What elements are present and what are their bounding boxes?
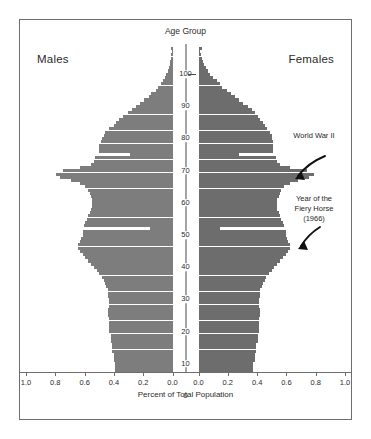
bar bbox=[199, 282, 264, 285]
bar bbox=[90, 192, 173, 195]
bar bbox=[199, 324, 259, 327]
bar bbox=[199, 295, 261, 298]
y-tick-label: 30 bbox=[180, 296, 190, 304]
bar bbox=[199, 247, 290, 250]
bar bbox=[88, 189, 172, 192]
bar bbox=[114, 356, 173, 359]
bar bbox=[199, 314, 261, 317]
y-tick-label: 50 bbox=[180, 231, 190, 239]
bar bbox=[199, 86, 223, 89]
bar bbox=[199, 185, 285, 188]
y-tick-label: 10 bbox=[180, 360, 190, 368]
bar bbox=[199, 92, 231, 95]
bar bbox=[111, 340, 173, 343]
bar bbox=[78, 243, 172, 246]
bar bbox=[199, 208, 278, 211]
bar bbox=[108, 292, 173, 295]
bar bbox=[199, 121, 264, 124]
bar bbox=[199, 250, 289, 253]
bar bbox=[199, 198, 278, 201]
bar bbox=[199, 66, 206, 69]
bar bbox=[81, 237, 172, 240]
bar bbox=[199, 234, 286, 237]
x-tick bbox=[199, 372, 200, 376]
bar bbox=[91, 263, 172, 266]
bar bbox=[109, 305, 172, 308]
y-tick-label: 20 bbox=[180, 328, 190, 336]
bar bbox=[199, 50, 201, 53]
bar bbox=[108, 314, 173, 317]
bar bbox=[92, 205, 172, 208]
bar bbox=[199, 337, 258, 340]
bar bbox=[114, 359, 173, 362]
bar bbox=[108, 311, 173, 314]
bar bbox=[199, 173, 314, 176]
bar bbox=[199, 227, 220, 230]
annotation-world-war-ii: World War II bbox=[283, 131, 345, 141]
bar bbox=[83, 234, 173, 237]
bar bbox=[199, 214, 280, 217]
x-tick-label: 0.6 bbox=[281, 378, 291, 387]
bar bbox=[199, 272, 269, 275]
bar bbox=[199, 356, 255, 359]
x-tick-label: 1.0 bbox=[340, 378, 350, 387]
bar bbox=[199, 53, 201, 56]
bar bbox=[108, 288, 173, 291]
bar bbox=[92, 201, 172, 204]
bar bbox=[199, 340, 258, 343]
bar bbox=[106, 285, 172, 288]
bar bbox=[60, 176, 172, 179]
x-axis-title: Percent of Total Population bbox=[20, 390, 351, 399]
bar bbox=[99, 272, 172, 275]
bar bbox=[199, 47, 202, 50]
bar bbox=[199, 182, 290, 185]
bar bbox=[199, 201, 278, 204]
bar bbox=[199, 195, 279, 198]
bar bbox=[199, 350, 257, 353]
bar bbox=[199, 127, 268, 130]
bar bbox=[115, 366, 173, 369]
bar bbox=[130, 153, 172, 156]
bar bbox=[199, 218, 282, 221]
bar bbox=[116, 121, 172, 124]
bar bbox=[199, 301, 259, 304]
bar bbox=[85, 185, 172, 188]
x-tick-label: 0.8 bbox=[50, 378, 60, 387]
bar bbox=[128, 111, 173, 114]
bar bbox=[199, 73, 211, 76]
bar bbox=[199, 327, 259, 330]
bar bbox=[83, 230, 173, 233]
bar bbox=[102, 137, 172, 140]
bar bbox=[109, 327, 172, 330]
bar bbox=[85, 221, 172, 224]
bar bbox=[199, 147, 273, 150]
bar bbox=[199, 221, 283, 224]
bar bbox=[199, 321, 259, 324]
bar bbox=[91, 208, 172, 211]
bar bbox=[105, 282, 172, 285]
x-tick-label: 1.0 bbox=[21, 378, 31, 387]
chart-frame: Males Females Age Group 0102030405060708… bbox=[19, 19, 352, 420]
bar bbox=[199, 115, 258, 118]
bar bbox=[199, 256, 283, 259]
bar bbox=[109, 301, 172, 304]
bar bbox=[199, 285, 262, 288]
bar bbox=[104, 279, 173, 282]
bar bbox=[199, 134, 272, 137]
bar bbox=[199, 108, 252, 111]
x-tick-label: 0.6 bbox=[79, 378, 89, 387]
x-tick-label: 0.8 bbox=[310, 378, 320, 387]
y-tick-label: 60 bbox=[180, 199, 190, 207]
bar bbox=[112, 346, 172, 349]
bar bbox=[199, 82, 220, 85]
bar bbox=[199, 311, 261, 314]
bar bbox=[88, 214, 172, 217]
bar bbox=[199, 269, 272, 272]
bar bbox=[91, 163, 172, 166]
bar bbox=[199, 69, 209, 72]
bar bbox=[199, 334, 258, 337]
bar bbox=[199, 60, 203, 63]
bar bbox=[109, 298, 172, 301]
bar bbox=[199, 137, 272, 140]
bar bbox=[199, 144, 273, 147]
